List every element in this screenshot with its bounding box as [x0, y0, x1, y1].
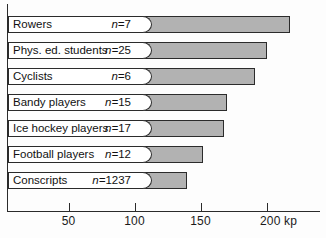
bar-row: Phys. ed. studentsn=25: [8, 42, 267, 59]
bar-category-label: Rowers: [13, 19, 52, 31]
bar-label-plate: Ice hockey playersn=17: [8, 120, 143, 137]
x-axis-tick-mark: [69, 203, 70, 212]
bar-row: Rowersn=7: [8, 16, 290, 33]
bar-category-label: Football players: [13, 149, 94, 161]
bar-sample-size-label: n=12: [105, 149, 131, 161]
x-axis-tick-label: 100: [124, 214, 145, 228]
bar-label-plate: Bandy playersn=15: [8, 94, 143, 111]
x-axis-tick-label: 150: [190, 214, 211, 228]
x-axis-tick-label: 50: [62, 214, 76, 228]
bar-row: Conscriptsn=1237: [8, 172, 187, 189]
bar-row: Football playersn=12: [8, 146, 203, 163]
bar-sample-size-label: n=6: [111, 71, 131, 83]
bar-label-plate: Phys. ed. studentsn=25: [8, 42, 143, 59]
bar-sample-size-label: n=7: [111, 19, 131, 31]
bar-category-label: Ice hockey players: [13, 123, 108, 135]
bar-category-label: Cyclists: [13, 71, 53, 83]
bar-category-label: Conscripts: [13, 175, 67, 187]
bar-row: Cyclistsn=6: [8, 68, 255, 85]
bar-label-plate: Rowersn=7: [8, 16, 143, 33]
x-axis-tick-mark: [267, 203, 268, 212]
bar-row: Ice hockey playersn=17: [8, 120, 224, 137]
bar-label-plate: Football playersn=12: [8, 146, 143, 163]
bar-sample-size-label: n=17: [105, 123, 131, 135]
x-axis-tick-label: 200 kp: [260, 214, 297, 228]
bar-label-plate: Conscriptsn=1237: [8, 172, 143, 189]
x-axis-tick-mark: [201, 203, 202, 212]
bar-label-plate: Cyclistsn=6: [8, 68, 143, 85]
bar-sample-size-label: n=25: [105, 45, 131, 57]
bar-row: Bandy playersn=15: [8, 94, 227, 111]
x-axis-line: [7, 211, 320, 212]
bar-sample-size-label: n=15: [105, 97, 131, 109]
bar-chart: 50100150200 kp Rowersn=7Phys. ed. studen…: [0, 0, 326, 238]
bar-category-label: Phys. ed. students: [13, 45, 108, 57]
bar-sample-size-label: n=1237: [92, 175, 131, 187]
x-axis-tick-mark: [135, 203, 136, 212]
bar-category-label: Bandy players: [13, 97, 86, 109]
